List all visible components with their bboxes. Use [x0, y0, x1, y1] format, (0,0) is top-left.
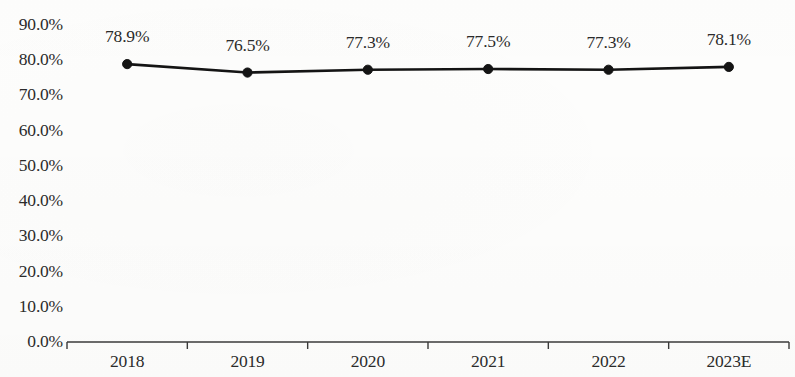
data-point-marker [363, 65, 372, 74]
data-point-label: 76.5% [225, 35, 269, 56]
line-chart: 0.0%10.0%20.0%30.0%40.0%50.0%60.0%70.0%8… [0, 0, 795, 377]
data-point-marker [604, 65, 613, 74]
data-point-label: 77.3% [346, 32, 390, 53]
plot-area [0, 0, 795, 377]
data-point-label: 78.9% [105, 26, 149, 47]
x-axis-tick-label: 2018 [110, 351, 144, 372]
x-axis-tick-label: 2019 [230, 351, 264, 372]
data-series-line [127, 64, 729, 72]
x-axis-tick-label: 2022 [591, 351, 625, 372]
x-axis-tick-label: 2021 [471, 351, 505, 372]
data-point-marker [243, 68, 252, 77]
x-axis-tick-label: 2020 [351, 351, 385, 372]
data-point-marker [123, 60, 132, 69]
data-point-label: 77.3% [586, 32, 630, 53]
x-axis-line [67, 342, 789, 349]
data-point-marker [724, 62, 733, 71]
data-point-marker [484, 64, 493, 73]
x-axis-tick-label: 2023E [706, 351, 751, 372]
data-point-label: 78.1% [707, 29, 751, 50]
data-point-label: 77.5% [466, 31, 510, 52]
